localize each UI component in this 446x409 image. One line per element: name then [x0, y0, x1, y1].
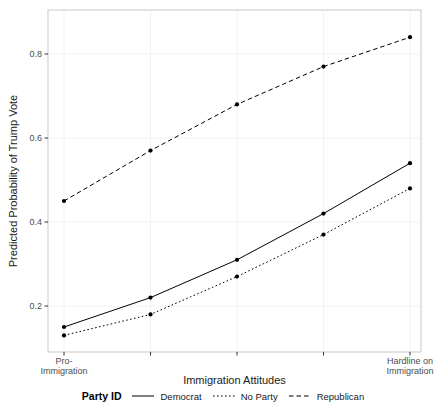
data-point-republican: [62, 199, 66, 203]
y-tick-label: 0.8: [29, 49, 42, 59]
data-point-republican: [321, 65, 325, 69]
y-tick-label: 0.4: [29, 217, 42, 227]
y-tick-label: 0.2: [29, 301, 42, 311]
y-axis-title: Predicted Probability of Trump Vote: [7, 76, 19, 286]
data-point-republican: [408, 35, 412, 39]
data-point-democrat: [321, 212, 325, 216]
data-point-republican: [235, 102, 239, 106]
legend-item-no-party: No Party: [212, 391, 278, 402]
legend: Party ID DemocratNo PartyRepublican: [0, 390, 446, 402]
panel-border: [48, 10, 421, 352]
legend-item-democrat: Democrat: [131, 391, 201, 402]
data-point-republican: [148, 149, 152, 153]
chart-figure: 0.20.40.60.8Pro-ImmigrationHardline onIm…: [0, 0, 446, 409]
x-tick-label: Hardline on: [387, 356, 433, 366]
legend-label-no-party: No Party: [241, 391, 278, 402]
data-point-no-party: [321, 233, 325, 237]
legend-label-republican: Republican: [317, 391, 365, 402]
data-point-democrat: [235, 258, 239, 262]
legend-label-democrat: Democrat: [160, 391, 201, 402]
legend-item-republican: Republican: [288, 391, 365, 402]
x-axis-title: Immigration Attitudes: [48, 374, 421, 386]
data-point-democrat: [62, 325, 66, 329]
data-point-no-party: [148, 312, 152, 316]
data-point-no-party: [408, 186, 412, 190]
y-tick-label: 0.6: [29, 133, 42, 143]
data-point-democrat: [408, 161, 412, 165]
legend-line-sample-solid-icon: [131, 391, 155, 401]
x-tick-label: Pro-: [55, 356, 72, 366]
legend-line-sample-dotted-icon: [212, 391, 236, 401]
data-point-no-party: [235, 275, 239, 279]
legend-line-sample-dashed-icon: [288, 391, 312, 401]
data-point-no-party: [62, 333, 66, 337]
data-point-democrat: [148, 296, 152, 300]
legend-title: Party ID: [82, 390, 122, 402]
plot-panel: 0.20.40.60.8Pro-ImmigrationHardline onIm…: [0, 0, 446, 409]
